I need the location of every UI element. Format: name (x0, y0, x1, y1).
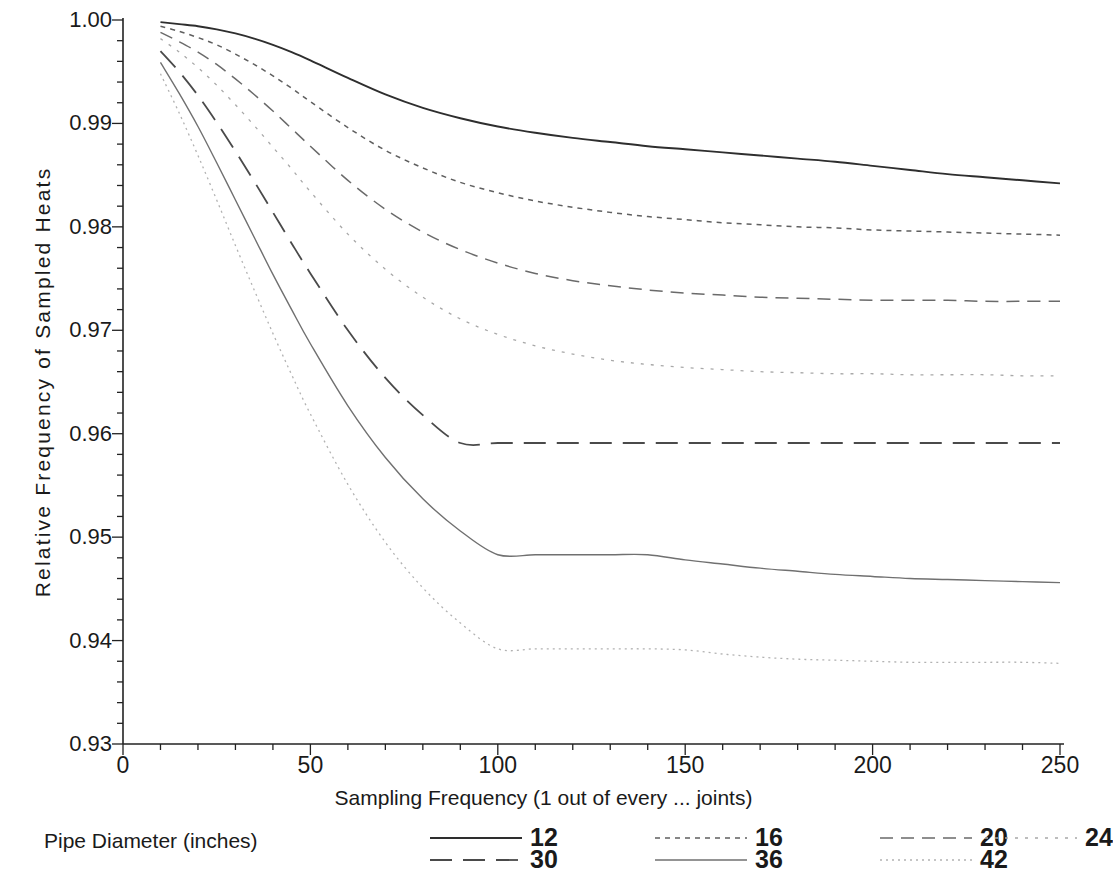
y-tick-label: 0.97 (32, 319, 112, 341)
series-line-24 (160, 39, 1060, 376)
legend-label: 36 (755, 845, 783, 872)
series-line-20 (160, 32, 1060, 301)
y-tick-label: 0.94 (32, 630, 112, 652)
legend-line-sample-20 (880, 836, 972, 838)
y-tick-label: 1.00 (32, 9, 112, 31)
y-tick-label: 0.95 (32, 526, 112, 548)
series-line-30 (160, 51, 1060, 445)
legend-line-sample-36 (655, 858, 747, 860)
y-tick-label: 0.98 (32, 216, 112, 238)
x-tick-label: 250 (1015, 752, 1105, 779)
legend-line-sample-24 (985, 836, 1077, 838)
series-line-16 (160, 26, 1060, 235)
x-tick-label: 50 (265, 752, 355, 779)
legend-line-sample-16 (655, 836, 747, 838)
legend-label: 30 (530, 845, 558, 872)
legend-label: 24 (1085, 823, 1113, 852)
legend-label: 42 (980, 845, 1008, 872)
series-line-42 (160, 74, 1060, 664)
legend: Pipe Diameter (inches) 12162024303642 (0, 826, 1087, 872)
y-tick-label-group: 0.930.940.950.960.970.980.991.00 (24, 0, 112, 872)
x-tick-label: 200 (828, 752, 918, 779)
x-tick-label: 0 (78, 752, 168, 779)
legend-line-sample-42 (880, 858, 972, 860)
series-line-12 (160, 22, 1060, 183)
y-tick-label: 0.99 (32, 112, 112, 134)
x-tick-label: 100 (453, 752, 543, 779)
y-tick-label: 0.96 (32, 423, 112, 445)
legend-title: Pipe Diameter (inches) (44, 829, 258, 853)
x-axis-title: Sampling Frequency (1 out of every ... j… (0, 786, 1087, 810)
series-line-36 (160, 62, 1060, 582)
legend-line-sample-12 (430, 836, 522, 838)
x-tick-label: 150 (640, 752, 730, 779)
legend-line-sample-30 (430, 858, 522, 860)
